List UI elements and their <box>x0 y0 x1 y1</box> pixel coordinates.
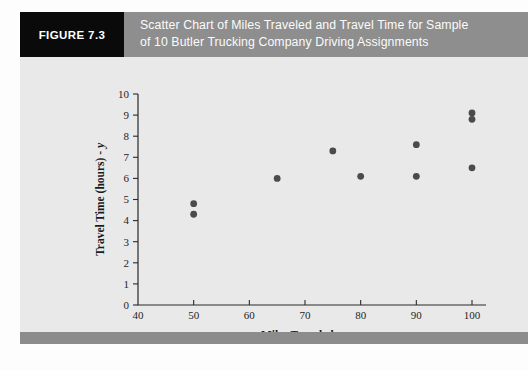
scatter-plot: 012345678910405060708090100 Miles Travel… <box>20 57 528 332</box>
x-tick-label: 60 <box>244 309 256 321</box>
data-points-group <box>190 110 475 218</box>
y-tick-label: 7 <box>124 151 130 163</box>
axis-titles-group: Miles Traveled - xTravel Time (hours) - … <box>94 142 349 332</box>
figure-caption-line-1: Scatter Chart of Miles Traveled and Trav… <box>140 17 514 34</box>
data-point <box>413 141 420 148</box>
y-tick-label: 9 <box>124 109 130 121</box>
data-point <box>274 175 281 182</box>
y-tick-label: 2 <box>124 257 130 269</box>
y-tick-label: 10 <box>118 88 130 100</box>
data-point <box>469 116 476 123</box>
figure-panel: FIGURE 7.3 Scatter Chart of Miles Travel… <box>20 12 528 344</box>
y-tick-label: 4 <box>124 214 130 226</box>
data-point <box>190 211 197 218</box>
figure-footer-bar <box>20 332 528 344</box>
data-point <box>469 110 476 117</box>
x-tick-label: 80 <box>355 309 367 321</box>
x-tick-label: 100 <box>464 309 481 321</box>
x-tick-label: 50 <box>188 309 200 321</box>
x-tick-label: 40 <box>133 309 145 321</box>
data-point <box>329 148 336 155</box>
x-tick-label: 70 <box>300 309 312 321</box>
y-tick-label: 0 <box>124 299 130 311</box>
page-root: FIGURE 7.3 Scatter Chart of Miles Travel… <box>0 0 528 371</box>
tick-labels-group: 012345678910405060708090100 <box>118 88 481 321</box>
y-tick-label: 8 <box>124 130 130 142</box>
y-tick-label: 5 <box>124 193 130 205</box>
scatter-plot-svg: 012345678910405060708090100 Miles Travel… <box>20 57 528 332</box>
axes-group <box>138 94 486 305</box>
figure-number-tag: FIGURE 7.3 <box>20 12 124 57</box>
data-point <box>413 173 420 180</box>
y-tick-label: 1 <box>124 278 130 290</box>
y-axis-title: Travel Time (hours) - y <box>94 142 107 256</box>
data-point <box>357 173 364 180</box>
y-tick-label: 3 <box>124 236 130 248</box>
ticks-group <box>133 94 472 305</box>
data-point <box>469 164 476 171</box>
chart-body: 012345678910405060708090100 Miles Travel… <box>20 57 528 332</box>
y-tick-label: 6 <box>124 172 130 184</box>
figure-caption-line-2: of 10 Butler Trucking Company Driving As… <box>140 34 514 51</box>
figure-caption: Scatter Chart of Miles Traveled and Trav… <box>124 12 528 57</box>
x-tick-label: 90 <box>411 309 423 321</box>
data-point <box>190 200 197 207</box>
figure-header: FIGURE 7.3 Scatter Chart of Miles Travel… <box>20 12 528 57</box>
axis-spine <box>138 94 486 305</box>
